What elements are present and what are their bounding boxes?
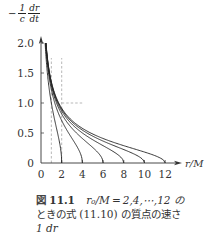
x-tick-label: 0 bbox=[38, 168, 45, 180]
y-tick-label: 1.0 bbox=[17, 97, 34, 109]
x-axis-label: r/M bbox=[185, 158, 204, 169]
figure-caption: 図 11.1 r₀/M = 2,4,⋯,12 の ときの式 (11.10) の質… bbox=[36, 193, 216, 235]
y-axis-label: − 1 c dr dt bbox=[8, 3, 40, 24]
x-tick-label: 6 bbox=[100, 168, 107, 180]
figure-number: 11.1 bbox=[49, 194, 75, 206]
chart-area: r/M02468101200.51.01.52.0 bbox=[0, 0, 218, 190]
y-tick-label: 1.5 bbox=[17, 67, 34, 79]
x-tick-label: 12 bbox=[159, 168, 172, 180]
y-tick-label: 0 bbox=[27, 157, 34, 169]
y-label-frac-dr-dt: dr dt bbox=[28, 3, 40, 24]
caption-line-1: 図 11.1 r₀/M = 2,4,⋯,12 の bbox=[36, 193, 216, 207]
y-tick-label: 0.5 bbox=[17, 127, 34, 139]
y-tick-label: 2.0 bbox=[17, 37, 34, 49]
figure-label: 図 bbox=[36, 194, 46, 206]
x-tick-label: 4 bbox=[79, 168, 86, 180]
x-tick-label: 8 bbox=[120, 168, 127, 180]
caption-params: r₀/M = 2,4,⋯,12 の bbox=[86, 194, 184, 206]
y-label-minus: − bbox=[8, 8, 16, 19]
velocity-chart: r/M02468101200.51.01.52.0 bbox=[0, 0, 218, 190]
x-tick-label: 10 bbox=[138, 168, 151, 180]
x-tick-label: 2 bbox=[58, 168, 65, 180]
velocity-curve-010 bbox=[46, 43, 145, 163]
caption-line-3: 1 dr bbox=[36, 221, 216, 235]
caption-line-2: ときの式 (11.10) の質点の速さ bbox=[36, 207, 216, 221]
y-label-frac-1-over-c: 1 c bbox=[18, 3, 26, 24]
